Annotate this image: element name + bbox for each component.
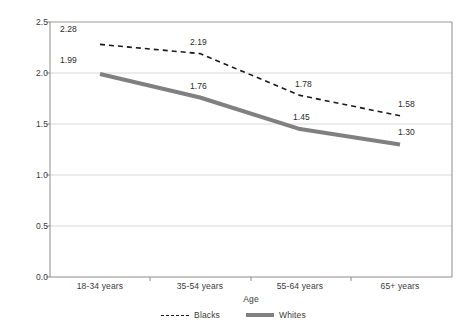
data-label-blacks-35-54: 2.19	[190, 37, 207, 47]
y-tick-label-2.0: 2.0	[18, 68, 48, 78]
series-line-blacks	[100, 44, 400, 115]
legend-item-whites: Whites	[246, 310, 306, 320]
chart-figure: Everyday Discrimination Score 2.5 2.0 1.…	[0, 0, 467, 335]
y-tick-label-2.5: 2.5	[18, 17, 48, 27]
legend-item-blacks: Blacks	[161, 310, 220, 320]
x-tick-label-35-54: 35-54 years	[155, 281, 245, 291]
gridlines	[50, 22, 452, 226]
legend-label-blacks: Blacks	[194, 310, 220, 320]
data-label-whites-65plus: 1.30	[398, 127, 415, 137]
plot-frame	[50, 22, 452, 277]
chart-legend: Blacks Whites	[0, 310, 467, 320]
data-label-whites-35-54: 1.76	[190, 81, 207, 91]
y-tick-label-1.5: 1.5	[18, 119, 48, 129]
data-label-whites-18-34: 1.99	[60, 55, 77, 65]
data-label-whites-55-64: 1.45	[293, 112, 310, 122]
y-tick-label-1.0: 1.0	[18, 170, 48, 180]
x-axis-title: Age	[50, 294, 452, 304]
y-tick-label-0.0: 0.0	[18, 272, 48, 282]
series-line-whites	[100, 74, 400, 144]
y-tick-label-0.5: 0.5	[18, 221, 48, 231]
legend-solid-line-icon	[246, 313, 274, 316]
y-tick-marks	[46, 22, 50, 277]
x-tick-label-55-64: 55-64 years	[255, 281, 345, 291]
legend-label-whites: Whites	[279, 310, 306, 320]
data-label-blacks-65plus: 1.58	[398, 99, 415, 109]
x-tick-label-65plus: 65+ years	[355, 281, 445, 291]
data-label-blacks-55-64: 1.78	[295, 79, 312, 89]
x-tick-label-18-34: 18-34 years	[55, 281, 145, 291]
legend-dashed-line-icon	[161, 315, 189, 316]
data-label-blacks-18-34: 2.28	[60, 24, 77, 34]
